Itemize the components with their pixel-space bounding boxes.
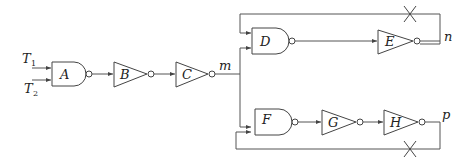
svg-text:E: E bbox=[384, 34, 395, 49]
gate-d-nand: D bbox=[252, 28, 295, 54]
gate-g-not: G bbox=[322, 110, 363, 135]
node-m-label: m bbox=[219, 58, 231, 73]
node-p-label: p bbox=[442, 107, 451, 122]
svg-text:D: D bbox=[259, 34, 271, 49]
svg-text:B: B bbox=[119, 67, 130, 82]
svg-text:H: H bbox=[389, 115, 402, 130]
gate-b-not: B bbox=[114, 62, 154, 87]
logic-circuit-diagram: T 1 T 2 A B C m D bbox=[0, 0, 471, 162]
input-t2: T 2 bbox=[24, 80, 51, 98]
svg-text:G: G bbox=[328, 115, 338, 130]
gate-e-not: E bbox=[378, 30, 420, 54]
input-t1: T 1 bbox=[22, 51, 51, 68]
svg-text:2: 2 bbox=[33, 89, 38, 98]
node-n-label: n bbox=[444, 29, 452, 44]
svg-text:F: F bbox=[261, 112, 272, 127]
gate-c-not: C bbox=[176, 62, 215, 87]
gate-a-nand: A bbox=[52, 62, 92, 86]
gate-f-nand: F bbox=[255, 109, 298, 135]
svg-text:C: C bbox=[182, 67, 192, 82]
svg-text:1: 1 bbox=[31, 59, 36, 68]
svg-text:A: A bbox=[59, 67, 69, 82]
gate-h-not: H bbox=[384, 110, 425, 135]
